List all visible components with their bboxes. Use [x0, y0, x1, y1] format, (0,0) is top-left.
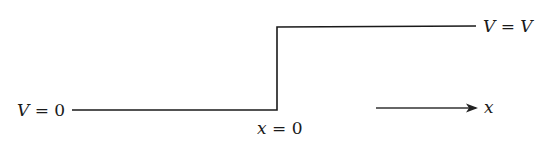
x-axis-label: x — [484, 97, 494, 117]
potential-step-line — [72, 26, 476, 110]
right-potential-eq: = — [495, 16, 520, 36]
x-direction-arrow-icon — [376, 104, 478, 113]
step-position-val: 0 — [292, 118, 303, 138]
left-potential-val: 0 — [54, 100, 65, 120]
step-position-var: x — [257, 118, 267, 138]
step-potential-diagram: V = 0 V = V x = 0 x — [0, 0, 555, 141]
left-potential-eq: = — [29, 100, 54, 120]
left-potential-label: V = 0 — [17, 100, 65, 120]
right-potential-val: V — [520, 16, 534, 36]
step-position-label: x = 0 — [257, 118, 302, 138]
right-potential-label: V = V — [483, 16, 534, 36]
step-position-eq: = — [267, 118, 292, 138]
